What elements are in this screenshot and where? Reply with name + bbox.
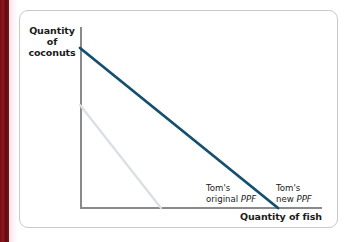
label-new-ppf-abbrev: PPF (297, 194, 312, 204)
page-edge-glow (9, 0, 18, 242)
figure-card: Quantity of coconuts Quantity of fish To… (19, 10, 338, 228)
label-new-ppf-line1: Tom's (276, 183, 300, 193)
label-original-ppf-abbrev: PPF (241, 194, 256, 204)
label-original-ppf-prefix: original (206, 194, 241, 204)
label-original-ppf: Tom's original PPF (206, 183, 256, 204)
page-edge-stripe (0, 0, 9, 242)
label-new-ppf: Tom's new PPF (276, 183, 312, 204)
ppf-line-original (80, 105, 161, 208)
label-original-ppf-line1: Tom's (206, 183, 230, 193)
plot-area: Quantity of coconuts Quantity of fish To… (20, 11, 339, 229)
label-new-ppf-prefix: new (276, 194, 297, 204)
